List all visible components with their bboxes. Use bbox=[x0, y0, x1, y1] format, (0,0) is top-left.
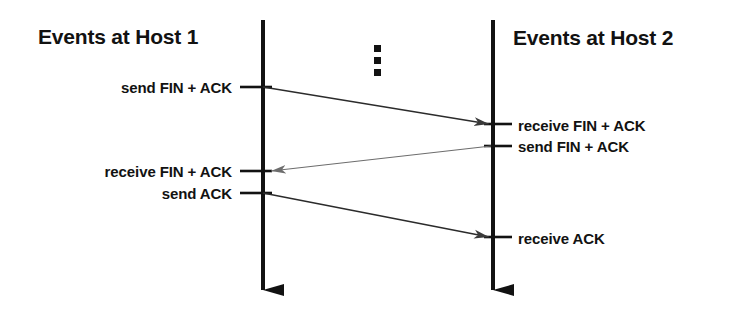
vertical-ellipsis-icon bbox=[374, 45, 381, 76]
event-label-host2-send-fin-ack: send FIN + ACK bbox=[518, 139, 629, 154]
message-arrow-ack-host1-to-host2 bbox=[263, 193, 489, 237]
sequence-diagram: Events at Host 1 Events at Host 2 send F… bbox=[0, 0, 751, 327]
host1-title: Events at Host 1 bbox=[38, 26, 198, 47]
event-label-host1-receive-fin-ack: receive FIN + ACK bbox=[105, 164, 232, 179]
message-arrow-fin-ack-host2-to-host1 bbox=[271, 146, 491, 171]
event-label-host1-send-ack: send ACK bbox=[162, 186, 232, 201]
message-arrow-fin-ack-host1-to-host2 bbox=[263, 87, 489, 124]
event-label-host1-send-fin-ack: send FIN + ACK bbox=[121, 80, 232, 95]
event-label-host2-receive-fin-ack: receive FIN + ACK bbox=[518, 118, 645, 133]
host2-title: Events at Host 2 bbox=[513, 27, 673, 48]
event-label-host2-receive-ack: receive ACK bbox=[518, 231, 605, 246]
